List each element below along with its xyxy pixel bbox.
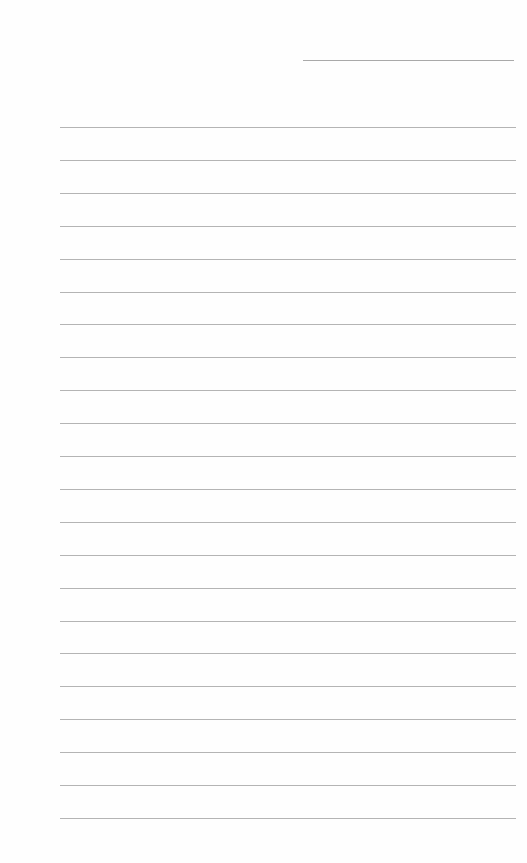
ruled-line <box>60 719 516 720</box>
ruled-line <box>60 588 516 589</box>
ruled-line <box>60 423 516 424</box>
ruled-line <box>60 555 516 556</box>
ruled-line <box>60 653 516 654</box>
ruled-line <box>60 292 516 293</box>
ruled-line <box>60 818 516 819</box>
ruled-line <box>60 522 516 523</box>
ruled-line <box>60 621 516 622</box>
ruled-line <box>60 489 516 490</box>
ruled-line <box>60 127 516 128</box>
ruled-line <box>60 324 516 325</box>
lined-paper-page <box>0 0 527 863</box>
ruled-line <box>60 160 516 161</box>
ruled-line <box>60 259 516 260</box>
ruled-line <box>60 193 516 194</box>
ruled-line <box>60 390 516 391</box>
ruled-line <box>60 752 516 753</box>
header-write-line <box>303 60 514 61</box>
ruled-line <box>60 686 516 687</box>
ruled-line <box>60 357 516 358</box>
ruled-line <box>60 226 516 227</box>
ruled-line <box>60 785 516 786</box>
ruled-line <box>60 456 516 457</box>
